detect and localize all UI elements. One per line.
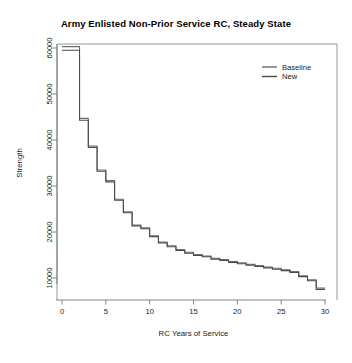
chart-plot: 0510152025301000020000300004000050000600… — [0, 0, 352, 363]
y-tick-label: 50000 — [45, 83, 54, 104]
legend-label-baseline: Baseline — [282, 63, 311, 72]
x-tick-label: 20 — [233, 307, 241, 316]
y-tick-label: 20000 — [45, 221, 54, 242]
x-tick-label: 25 — [277, 307, 285, 316]
y-axis-title: Strength — [15, 148, 24, 177]
chart-container: Army Enlisted Non-Prior Service RC, Stea… — [0, 0, 352, 363]
x-tick-label: 10 — [145, 307, 153, 316]
y-tick-label: 40000 — [45, 129, 54, 150]
y-tick-label: 30000 — [45, 175, 54, 196]
y-tick-label: 10000 — [45, 267, 54, 288]
series-line-baseline — [62, 47, 325, 289]
x-tick-label: 15 — [189, 307, 197, 316]
y-tick-label: 60000 — [45, 37, 54, 58]
x-tick-label: 5 — [104, 307, 108, 316]
x-tick-label: 0 — [60, 307, 64, 316]
legend-label-new: New — [282, 72, 298, 81]
x-tick-label: 30 — [321, 307, 329, 316]
x-axis-title: RC Years of Service — [159, 329, 229, 338]
plot-frame — [57, 44, 337, 300]
